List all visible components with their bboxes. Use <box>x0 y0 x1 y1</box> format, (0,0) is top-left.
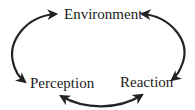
arrow-environment-perception <box>12 14 56 82</box>
arrow-environment-reaction <box>142 14 184 80</box>
node-perception: Perception <box>30 76 94 91</box>
node-environment: Environment <box>64 7 142 22</box>
arrow-perception-reaction <box>61 95 142 106</box>
cycle-diagram: Environment Perception Reaction <box>0 0 195 110</box>
node-reaction: Reaction <box>120 75 173 90</box>
